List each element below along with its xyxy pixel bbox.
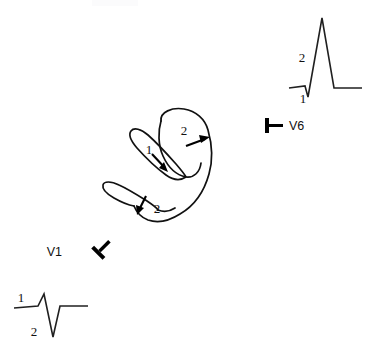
v6-r-label: 2 [299,50,306,65]
lead-v1-group: 1 2 V1 [14,236,115,339]
v1-s-label: 2 [31,324,38,339]
lead-v1-label: V1 [47,245,62,259]
ecg-ventricle-figure: 1 2 2 1 2 V6 [0,0,373,363]
vector-1-label: 1 [146,142,153,157]
vector-2-upper-label: 2 [181,123,188,138]
lower-lobe-inner-edge [158,208,175,211]
vector-2-lower-label: 2 [154,201,161,216]
septum-lobe-outline [130,129,186,180]
lead-v6-group: 1 2 V6 [265,18,362,133]
lead-v6-label: V6 [289,119,304,133]
lower-lobe-outline [103,182,158,210]
v6-q-label: 1 [300,91,307,106]
vector-2-lower-arrow [136,196,146,215]
v6-electrode-marker-icon [265,118,283,133]
v1-waveform [14,294,88,337]
vector-2-upper-arrow [186,135,210,146]
ventricle-cross-section: 1 2 2 [103,109,212,222]
v1-r-label: 1 [18,290,25,305]
v1-electrode-marker-icon [91,236,115,260]
